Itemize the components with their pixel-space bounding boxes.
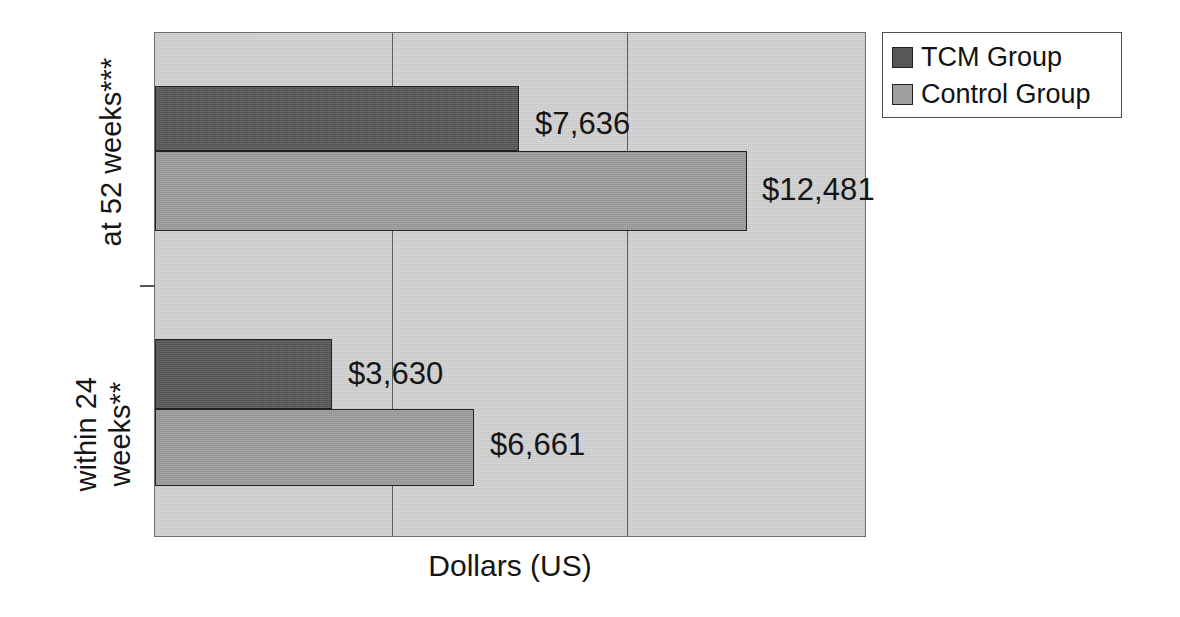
category-axis-tick <box>140 285 155 287</box>
bar-value-label-tcm-24: $3,630 <box>348 358 443 389</box>
bar-control-24-weeks[interactable] <box>155 409 474 486</box>
category-label-24-weeks-line1: within 24 <box>69 319 103 549</box>
category-label-24-weeks: within 24 weeks** <box>69 319 137 549</box>
legend-item-control-group[interactable]: Control Group <box>892 76 1112 113</box>
bar-value-label-control-24: $6,661 <box>490 429 585 460</box>
legend-swatch-tcm-icon <box>892 47 913 68</box>
legend-label-tcm-group: TCM Group <box>921 44 1062 71</box>
bar-value-label-tcm-52: $7,636 <box>535 108 630 139</box>
bar-tcm-52-weeks[interactable] <box>155 86 519 151</box>
bar-value-label-control-52: $12,481 <box>762 174 875 205</box>
legend-item-tcm-group[interactable]: TCM Group <box>892 39 1112 76</box>
bar-tcm-24-weeks[interactable] <box>155 339 332 409</box>
x-axis-title: Dollars (US) <box>154 549 866 583</box>
category-label-52-weeks: at 52 weeks*** <box>94 37 128 267</box>
category-label-52-weeks-text: at 52 weeks*** <box>95 58 127 247</box>
category-label-24-weeks-line2: weeks** <box>103 319 137 549</box>
chart-legend: TCM Group Control Group <box>882 32 1122 118</box>
legend-label-control-group: Control Group <box>921 81 1091 108</box>
legend-swatch-control-icon <box>892 84 913 105</box>
bar-control-52-weeks[interactable] <box>155 151 747 231</box>
